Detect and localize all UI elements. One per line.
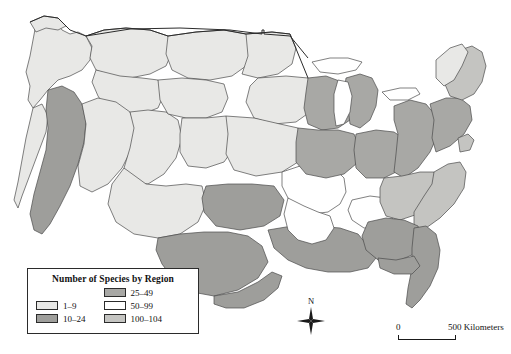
legend-label-50-99: 50–99 <box>131 301 154 311</box>
legend-label-1-9: 1–9 <box>63 301 77 311</box>
legend-entry-1-9: 1–9 <box>36 299 104 312</box>
lake-superior <box>312 58 362 74</box>
region-delmarva <box>458 134 474 152</box>
legend-swatch-1-9 <box>36 301 58 310</box>
legend-entry-100-104: 100–104 <box>104 312 190 325</box>
map-scalebar: 0 500 Kilometers <box>396 322 508 348</box>
legend-label-100-104: 100–104 <box>131 314 163 324</box>
region-southern-great-plains <box>202 184 284 230</box>
scalebar-labels: 0 500 Kilometers <box>396 322 508 334</box>
compass-rose: N <box>296 296 326 338</box>
legend-label-10-24: 10–24 <box>63 314 86 324</box>
scalebar-zero-label: 0 <box>396 322 401 332</box>
legend-columns: 1–9 10–24 25–49 50–99 100–104 <box>28 286 198 325</box>
map-legend: Number of Species by Region 1–9 10–24 25… <box>27 268 199 334</box>
region-appalachians <box>394 100 438 178</box>
species-distribution-map: Number of Species by Region 1–9 10–24 25… <box>0 0 511 354</box>
region-corn-belt <box>296 128 360 178</box>
legend-column-right: 25–49 50–99 100–104 <box>104 286 190 325</box>
legend-entry-10-24: 10–24 <box>36 312 104 325</box>
legend-swatch-25-49 <box>104 288 126 297</box>
legend-swatch-10-24 <box>36 314 58 323</box>
region-colorado-plateau <box>124 110 182 184</box>
legend-swatch-50-99 <box>104 301 126 310</box>
legend-title: Number of Species by Region <box>28 274 198 284</box>
legend-entry-25-49: 25–49 <box>104 286 190 299</box>
legend-column-left: 1–9 10–24 <box>36 286 104 325</box>
region-northern-great-plains <box>246 76 314 124</box>
legend-entry-50-99: 50–99 <box>104 299 190 312</box>
legend-label-25-49: 25–49 <box>131 288 154 298</box>
scalebar-bracket <box>398 335 456 340</box>
compass-north-label: N <box>296 296 326 306</box>
region-montana-plains <box>242 32 296 78</box>
scalebar-max-label: 500 Kilometers <box>448 322 504 332</box>
region-central-great-plains <box>226 116 304 176</box>
legend-swatch-100-104 <box>104 314 126 323</box>
region-wyoming-basin <box>158 78 228 118</box>
region-northern-rockies <box>166 30 252 80</box>
compass-rose-icon <box>296 306 326 336</box>
lake-erie-ontario <box>382 88 420 100</box>
